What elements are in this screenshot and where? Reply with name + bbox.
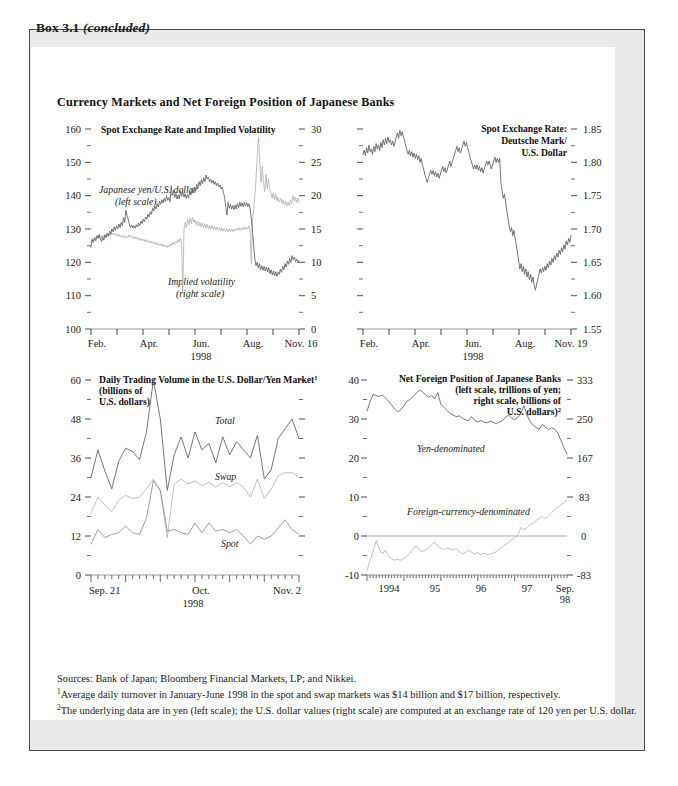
chart-1-ytick-left-3: 130 bbox=[65, 224, 81, 235]
chart-3-xlabel: 1998 bbox=[183, 598, 204, 609]
chart-4-xtick-4b: 98 bbox=[560, 594, 571, 605]
chart-1-ytick-right-0: 0 bbox=[311, 324, 316, 335]
footnote-2: 2The underlying data are in yen (left sc… bbox=[57, 703, 602, 719]
chart-2-xtick-0: Feb. bbox=[360, 338, 378, 349]
chart-4-xtick-4a: Sep. bbox=[556, 583, 574, 594]
chart-2-ytick-2: 1.65 bbox=[583, 257, 601, 268]
chart-1-ytick-left-5: 150 bbox=[65, 157, 81, 168]
chart-1-xtick-3: Aug. bbox=[243, 338, 264, 349]
box-label-note: (concluded) bbox=[83, 20, 150, 35]
chart-3-annotation-total: Total bbox=[215, 415, 235, 426]
chart-1-ytick-right-6: 30 bbox=[311, 124, 322, 135]
chart-3-svg: 0 12 24 36 48 60 Sep. 21 Oct. Nov. 2 199… bbox=[43, 375, 343, 625]
chart-4-ytick-right-2: 83 bbox=[579, 492, 590, 503]
chart-1-ytick-right-5: 25 bbox=[311, 157, 322, 168]
chart-4-ytick-right-4: 250 bbox=[577, 414, 593, 425]
chart-4-ytick-left-5: 40 bbox=[349, 375, 360, 386]
chart-1-svg: 100 110 120 130 140 150 160 0 5 10 15 20… bbox=[43, 125, 343, 375]
chart-4-svg: -10 0 10 20 30 40 -83 0 83 167 250 333 1… bbox=[331, 375, 621, 625]
chart-1-ytick-left-2: 120 bbox=[65, 257, 81, 268]
page-root: Box 3.1 (concluded) Currency Markets and… bbox=[0, 0, 678, 786]
chart-1-annotation-2: Implied volatility bbox=[167, 276, 236, 287]
page-title: Currency Markets and Net Foreign Positio… bbox=[57, 95, 394, 110]
chart-3-xtick-2: Nov. 2 bbox=[273, 585, 301, 596]
chart-2-title-line-2: U.S. Dollar bbox=[521, 147, 567, 158]
chart-4-ytick-right-1: 0 bbox=[581, 531, 586, 542]
chart-4-xtick-0: 1994 bbox=[379, 583, 401, 594]
chart-3-ytick-5: 60 bbox=[71, 375, 82, 386]
chart-1-xtick-2: Jun. bbox=[192, 338, 209, 349]
chart-4-x-ticks bbox=[367, 575, 567, 581]
chart-1-ytick-right-1: 5 bbox=[311, 290, 316, 301]
chart-1-xtick-4: Nov. 16 bbox=[284, 338, 317, 349]
chart-2-ytick-6: 1.85 bbox=[583, 124, 601, 135]
chart-3-series-spot bbox=[91, 481, 299, 544]
chart-2-svg: 1.55 1.60 1.65 1.70 1.75 1.80 1.85 Feb. … bbox=[331, 125, 621, 375]
footnotes: Sources: Bank of Japan; Bloomberg Financ… bbox=[57, 672, 602, 719]
chart-4-annotation-yen: Yen-denominated bbox=[417, 443, 485, 454]
chart-1-ytick-left-0: 100 bbox=[65, 324, 81, 335]
chart-3-annotation-swap: Swap bbox=[215, 471, 236, 482]
chart-3-left-minor-ticks bbox=[87, 400, 91, 556]
chart-1-title: Spot Exchange Rate and Implied Volatilit… bbox=[101, 124, 276, 135]
chart-4-ytick-left-1: 0 bbox=[354, 531, 359, 542]
chart-1-ytick-left-4: 140 bbox=[65, 190, 81, 201]
chart-4-title-footnote: 2 bbox=[558, 406, 561, 413]
chart-2-xtick-1: Apr. bbox=[412, 338, 430, 349]
chart-4-ytick-left-4: 30 bbox=[349, 414, 360, 425]
chart-4-annotation-fx: Foreign-currency-denominated bbox=[406, 506, 530, 517]
chart-1-plot: 100 110 120 130 140 150 160 0 5 10 15 20… bbox=[65, 124, 321, 363]
chart-4-ytick-right-0: -83 bbox=[577, 570, 591, 581]
chart-3-xtick-0: Sep. 21 bbox=[89, 585, 121, 596]
chart-3-plot: 0 12 24 36 48 60 Sep. 21 Oct. Nov. 2 199… bbox=[71, 374, 318, 610]
footnote-1-text: Average daily turnover in January-June 1… bbox=[61, 689, 561, 700]
chart-4-ytick-right-5: 333 bbox=[577, 375, 593, 386]
chart-1-ytick-right-4: 20 bbox=[311, 190, 322, 201]
chart-4-xtick-3: 97 bbox=[522, 583, 533, 594]
chart-3-annotation-spot: Spot bbox=[221, 538, 239, 549]
chart-1-ytick-left-1: 110 bbox=[66, 290, 81, 301]
chart-2-plot: 1.55 1.60 1.65 1.70 1.75 1.80 1.85 Feb. … bbox=[357, 123, 601, 362]
chart-3-series-swap bbox=[91, 473, 299, 538]
chart-4-title-line-3-text: U.S. dollars) bbox=[507, 406, 558, 418]
chart-3-ytick-4: 48 bbox=[71, 414, 82, 425]
chart-3-xtick-1: Oct. bbox=[192, 585, 210, 596]
chart-1-xlabel: 1998 bbox=[191, 351, 212, 362]
chart-1-ytick-right-2: 10 bbox=[311, 257, 322, 268]
chart-2-title-line-1: Deutsche Mark/ bbox=[501, 135, 567, 146]
chart-4-ytick-right-3: 167 bbox=[577, 453, 593, 464]
chart-2-title-line-0: Spot Exchange Rate: bbox=[481, 123, 567, 134]
footnote-sources: Sources: Bank of Japan; Bloomberg Financ… bbox=[57, 672, 602, 687]
chart-3-x-ticks bbox=[91, 575, 299, 582]
chart-3-title-footnote: 1 bbox=[314, 374, 317, 381]
chart-1-ytick-right-3: 15 bbox=[311, 224, 322, 235]
chart-1-xtick-0: Feb. bbox=[88, 338, 106, 349]
chart-2-left-ticks bbox=[357, 129, 363, 329]
chart-net-foreign-position: -10 0 10 20 30 40 -83 0 83 167 250 333 1… bbox=[331, 375, 621, 625]
chart-4-plot: -10 0 10 20 30 40 -83 0 83 167 250 333 1… bbox=[345, 373, 593, 605]
chart-1-right-ticks bbox=[299, 129, 305, 329]
chart-3-title-text: Daily Trading Volume in the U.S. Dollar/… bbox=[99, 374, 315, 385]
chart-2-xlabel: 1998 bbox=[463, 351, 484, 362]
chart-3-right-ticks bbox=[299, 380, 305, 536]
content-panel: Currency Markets and Net Foreign Positio… bbox=[31, 47, 615, 720]
chart-4-left-minor-ticks bbox=[363, 400, 367, 556]
chart-2-ytick-0: 1.55 bbox=[583, 324, 601, 335]
chart-3-ytick-3: 36 bbox=[71, 453, 82, 464]
chart-1-xtick-1: Apr. bbox=[140, 338, 158, 349]
box-label: Box 3.1 (concluded) bbox=[36, 20, 150, 36]
chart-4-ytick-left-2: 10 bbox=[349, 492, 360, 503]
chart-4-title-line-3: U.S. dollars)2 bbox=[507, 406, 561, 419]
chart-4-right-minor-ticks bbox=[567, 400, 571, 556]
chart-4-ytick-left-0: -10 bbox=[345, 570, 359, 581]
chart-2-x-ticks bbox=[363, 329, 571, 335]
chart-3-ytick-2: 24 bbox=[71, 492, 82, 503]
chart-3-ytick-1: 12 bbox=[71, 531, 82, 542]
chart-4-xtick-2: 96 bbox=[476, 583, 487, 594]
chart-1-left-ticks bbox=[85, 129, 91, 329]
chart-2-xtick-4: Nov. 19 bbox=[554, 338, 587, 349]
chart-4-title-line-0: Net Foreign Position of Japanese Banks bbox=[399, 373, 561, 384]
chart-spot-rate-dem-usd: 1.55 1.60 1.65 1.70 1.75 1.80 1.85 Feb. … bbox=[331, 125, 621, 375]
chart-1-annotation-1: (left scale) bbox=[115, 196, 157, 208]
chart-3-ytick-0: 0 bbox=[76, 570, 81, 581]
